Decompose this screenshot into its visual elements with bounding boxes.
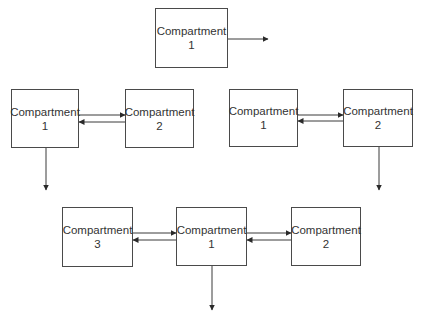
- compartment-label: Compartment: [157, 24, 227, 38]
- compartment-box-two-compartment-central-elimination-c1: Compartment1: [11, 89, 79, 148]
- compartment-box-two-compartment-peripheral-elimination-c1: Compartment1: [229, 89, 298, 147]
- compartment-box-three-compartment-c1: Compartment1: [176, 207, 247, 266]
- compartment-number: 1: [208, 237, 214, 251]
- compartment-label: Compartment: [63, 223, 133, 237]
- compartment-number: 2: [323, 237, 329, 251]
- compartment-box-two-compartment-central-elimination-c2: Compartment2: [125, 89, 194, 148]
- compartment-number: 1: [42, 119, 48, 133]
- compartment-box-three-compartment-c3: Compartment3: [62, 207, 133, 267]
- compartment-number: 1: [188, 38, 194, 52]
- compartment-number: 2: [375, 118, 381, 132]
- compartment-number: 2: [156, 119, 162, 133]
- compartment-number: 1: [260, 118, 266, 132]
- compartment-number: 3: [94, 237, 100, 251]
- compartment-label: Compartment: [229, 104, 299, 118]
- compartment-label: Compartment: [10, 105, 80, 119]
- compartment-label: Compartment: [343, 104, 413, 118]
- compartment-label: Compartment: [125, 105, 195, 119]
- compartment-box-three-compartment-c2: Compartment2: [291, 207, 361, 266]
- compartment-box-one-compartment-c1: Compartment1: [155, 8, 228, 68]
- compartment-box-two-compartment-peripheral-elimination-c2: Compartment2: [343, 89, 413, 147]
- compartment-label: Compartment: [291, 223, 361, 237]
- compartment-label: Compartment: [177, 223, 247, 237]
